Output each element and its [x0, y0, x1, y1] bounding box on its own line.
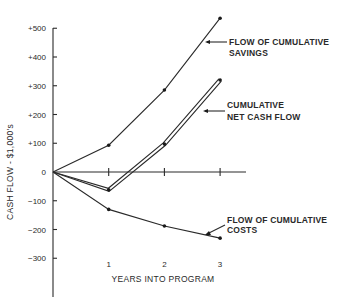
y-tick-label: +100: [28, 139, 47, 148]
svg-text:FLOW OF CUMULATIVE: FLOW OF CUMULATIVE: [229, 37, 329, 47]
y-axis: +500+400+300+200+1000−100−200−300: [28, 24, 57, 297]
y-tick-label: −300: [28, 254, 47, 263]
y-tick-label: −200: [28, 226, 47, 235]
x-tick-label: 2: [162, 260, 167, 269]
y-tick-label: +200: [28, 111, 47, 120]
x-axis: 123: [53, 168, 246, 269]
annotation-net-cash-flow: CUMULATIVE NET CASH FLOW: [203, 100, 301, 122]
data-point: [218, 16, 222, 20]
annotation-savings: FLOW OF CUMULATIVE SAVINGS: [205, 37, 329, 58]
y-tick-label: 0: [42, 168, 47, 177]
y-tick-label: −100: [28, 197, 47, 206]
series-layer: [53, 16, 222, 240]
series-1: [53, 78, 222, 191]
data-point: [107, 208, 111, 212]
y-tick-label: +300: [28, 82, 47, 91]
svg-text:SAVINGS: SAVINGS: [229, 48, 268, 58]
y-axis-title: CASH FLOW - $1,000's: [5, 124, 15, 220]
x-tick-label: 3: [218, 260, 223, 269]
data-point: [218, 78, 222, 82]
annotation-costs: FLOW OF CUMULATIVE COSTS: [205, 215, 327, 235]
svg-text:COSTS: COSTS: [227, 225, 257, 235]
data-point: [107, 143, 111, 147]
y-tick-label: +400: [28, 53, 47, 62]
x-axis-title: YEARS INTO PROGRAM: [111, 274, 214, 284]
series-0: [53, 16, 222, 172]
x-tick-label: 1: [106, 260, 111, 269]
svg-text:CUMULATIVE: CUMULATIVE: [227, 100, 284, 110]
y-tick-label: +500: [28, 24, 47, 33]
data-point: [163, 224, 167, 228]
cash-flow-chart: +500+400+300+200+1000−100−200−300 123 CA…: [0, 0, 342, 303]
svg-text:NET CASH FLOW: NET CASH FLOW: [227, 112, 301, 122]
data-point: [107, 188, 111, 192]
series-2: [53, 172, 222, 240]
data-point: [218, 236, 222, 240]
data-point: [163, 88, 167, 92]
svg-text:FLOW OF CUMULATIVE: FLOW OF CUMULATIVE: [227, 215, 327, 225]
data-point: [163, 142, 167, 146]
